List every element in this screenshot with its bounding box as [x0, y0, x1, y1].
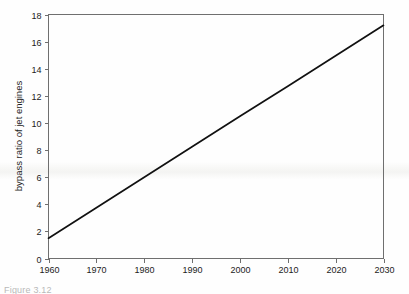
y-tick-label: 4 — [36, 200, 41, 210]
y-tick-label: 12 — [31, 92, 41, 102]
y-tick-label: 8 — [36, 146, 41, 156]
y-tick-label: 6 — [36, 173, 41, 183]
y-tick-label: 18 — [31, 11, 41, 21]
x-tick-label: 1960 — [39, 265, 59, 275]
data-series-line — [49, 25, 384, 238]
y-tick-label: 14 — [31, 65, 41, 75]
x-tick-label: 1980 — [134, 265, 154, 275]
x-tick-label: 1990 — [182, 265, 202, 275]
x-axis-ticks: 19601970198019902000201020202030 — [39, 259, 394, 275]
x-tick-label: 1970 — [86, 265, 106, 275]
plot-frame — [49, 15, 384, 259]
x-tick-label: 2000 — [230, 265, 250, 275]
y-axis-ticks: 024681012141618 — [31, 11, 48, 265]
y-axis-title: bypass ratio of jet engines — [13, 81, 24, 192]
figure-caption: Figure 3.12 — [4, 285, 52, 294]
x-tick-label: 2030 — [374, 265, 394, 275]
y-tick-label: 10 — [31, 119, 41, 129]
x-tick-label: 2010 — [278, 265, 298, 275]
plot-border — [49, 15, 384, 259]
line-chart-figure: bypass ratio of jet engines 024681012141… — [0, 0, 409, 294]
x-tick-label: 2020 — [326, 265, 346, 275]
y-tick-label: 16 — [31, 38, 41, 48]
chart-plot-svg: bypass ratio of jet engines 024681012141… — [0, 0, 409, 294]
y-tick-label: 0 — [36, 255, 41, 265]
figure-page: bypass ratio of jet engines 024681012141… — [0, 0, 409, 294]
y-tick-label: 2 — [36, 227, 41, 237]
